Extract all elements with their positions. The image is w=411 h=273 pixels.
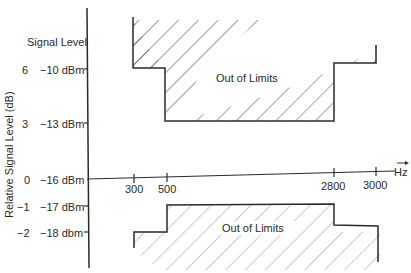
x-axis xyxy=(87,171,395,179)
lower-out-of-limits-region xyxy=(134,205,380,270)
y-tick-rel-neg1: −1 xyxy=(17,201,30,213)
y-tick-rel-6: 6 xyxy=(22,64,28,76)
x-tick-2800: 2800 xyxy=(321,180,345,192)
x-tick-300: 300 xyxy=(125,183,143,195)
lower-region-label: Out of Limits xyxy=(222,222,284,234)
y-tick-abs-16dbm: −16 dBm xyxy=(40,174,84,186)
x-unit-label: Hz xyxy=(394,166,407,178)
y-tick-rel-3: 3 xyxy=(22,118,28,130)
y-tick-rel-neg2: −2 xyxy=(17,227,30,239)
signal-level-mask-diagram: Relative Signal Level (dB) Signal Level … xyxy=(0,0,411,273)
x-tick-3000: 3000 xyxy=(363,179,387,191)
y-tick-abs-10dbm: −10 dBm xyxy=(40,64,84,76)
y-tick-abs-18dbm: −18 dbm xyxy=(40,227,83,239)
y-axis-title: Relative Signal Level (dB) xyxy=(3,91,15,218)
signal-level-header: Signal Level xyxy=(27,36,87,48)
upper-region-label: Out of Limits xyxy=(216,72,278,84)
y-tick-rel-0: 0 xyxy=(24,174,30,186)
y-tick-abs-13dbm: −13 dBm xyxy=(40,118,84,130)
y-axis xyxy=(87,8,89,268)
x-tick-500: 500 xyxy=(158,183,176,195)
y-tick-abs-17dbm: −17 dBm xyxy=(40,201,84,213)
